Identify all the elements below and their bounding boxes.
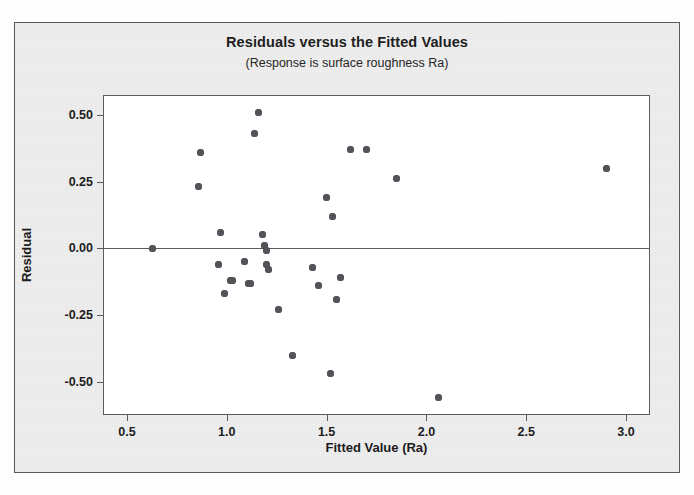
- y-axis-tick-label: 0.50: [69, 108, 93, 122]
- data-point: [247, 280, 254, 287]
- x-axis-tick-label: 1.5: [318, 425, 335, 439]
- y-axis-tick-label: 0.00: [69, 241, 93, 255]
- data-point: [347, 146, 354, 153]
- x-axis-tick-label: 0.5: [118, 425, 135, 439]
- data-point: [241, 258, 248, 265]
- x-axis-tick-label: 2.0: [418, 425, 435, 439]
- y-axis-tick-label: -0.25: [65, 308, 94, 322]
- y-axis-tick: [97, 248, 104, 249]
- chart-subtitle: (Response is surface roughness Ra): [0, 56, 694, 70]
- x-axis-tick-label: 3.0: [617, 425, 634, 439]
- data-point: [333, 296, 340, 303]
- chart-title: Residuals versus the Fitted Values: [0, 34, 694, 50]
- zero-reference-line: [104, 248, 649, 249]
- y-axis-tick: [97, 315, 104, 316]
- data-point: [255, 109, 262, 116]
- data-point: [289, 352, 296, 359]
- scanned-page: Residuals versus the Fitted Values (Resp…: [0, 0, 694, 495]
- y-axis-tick-label: 0.25: [69, 175, 93, 189]
- data-point: [197, 149, 204, 156]
- x-axis-title: Fitted Value (Ra): [103, 440, 650, 455]
- y-axis-tick-label: -0.50: [65, 375, 94, 389]
- x-axis-tick-label: 1.0: [218, 425, 235, 439]
- y-axis-title: Residual: [19, 228, 34, 282]
- data-point: [229, 277, 236, 284]
- x-axis-tick-label: 2.5: [518, 425, 535, 439]
- data-point: [309, 264, 316, 271]
- data-point: [221, 290, 228, 297]
- x-axis-tick: [127, 414, 128, 421]
- data-point: [251, 130, 258, 137]
- data-point: [265, 266, 272, 273]
- data-point: [315, 282, 322, 289]
- plot-canvas: [104, 96, 649, 414]
- data-point: [149, 245, 156, 252]
- data-point: [259, 231, 266, 238]
- y-axis-tick: [97, 182, 104, 183]
- x-axis-tick: [626, 414, 627, 421]
- data-point: [215, 261, 222, 268]
- data-point: [337, 274, 344, 281]
- x-axis-tick: [426, 414, 427, 421]
- data-point: [217, 229, 224, 236]
- y-axis-tick: [97, 115, 104, 116]
- data-point: [435, 394, 442, 401]
- data-point: [329, 213, 336, 220]
- data-point: [393, 175, 400, 182]
- data-point: [195, 183, 202, 190]
- data-point: [275, 306, 282, 313]
- data-point: [327, 370, 334, 377]
- data-point: [603, 165, 610, 172]
- x-axis-tick: [327, 414, 328, 421]
- y-axis-tick: [97, 382, 104, 383]
- x-axis-tick: [227, 414, 228, 421]
- data-point: [263, 247, 270, 254]
- data-point: [323, 194, 330, 201]
- plot-area: 0.500.250.00-0.25-0.500.51.01.52.02.53.0: [103, 95, 650, 415]
- data-point: [363, 146, 370, 153]
- x-axis-tick: [526, 414, 527, 421]
